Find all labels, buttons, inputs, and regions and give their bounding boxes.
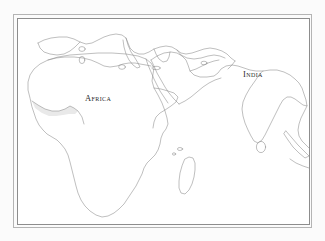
shaded-coastal-region xyxy=(32,101,78,116)
persian-gulf-coast xyxy=(190,60,219,71)
arabian-sea-coast xyxy=(179,78,221,104)
sicily-island xyxy=(119,65,126,70)
southeast-asia-coastline xyxy=(298,106,309,148)
horn-of-africa-coastline xyxy=(153,88,178,128)
india-coastline xyxy=(242,70,307,143)
map-label-india: India xyxy=(243,70,263,79)
java-island-coastline xyxy=(290,159,309,168)
iberia-coastline xyxy=(38,42,80,55)
sardinia-island xyxy=(79,56,85,63)
greece-coastline xyxy=(154,49,170,62)
balearic-island xyxy=(79,47,85,52)
mayotte-island xyxy=(172,153,175,155)
comoros-island xyxy=(177,148,182,151)
madagascar-island-coastline xyxy=(179,157,195,194)
cyprus-island xyxy=(201,61,207,65)
sri-lanka-island xyxy=(256,141,265,152)
map-label-africa: Africa xyxy=(85,94,111,103)
anatolia-coastline xyxy=(177,50,225,59)
africa-coastline xyxy=(28,53,168,217)
crete-island xyxy=(152,66,160,69)
map-figure: Africa India xyxy=(0,0,325,241)
map-canvas xyxy=(18,19,309,224)
